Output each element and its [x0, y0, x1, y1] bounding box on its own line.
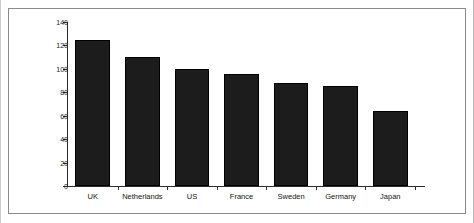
x-tick-mark — [415, 186, 416, 190]
bar — [125, 57, 160, 186]
y-tick-label: 0 — [42, 183, 68, 190]
bar-category-label: Japan — [358, 192, 422, 201]
y-tick-label-wrap: 140 — [28, 19, 68, 26]
bar — [274, 83, 309, 186]
x-tick-mark — [167, 186, 168, 190]
x-tick-mark — [316, 186, 317, 190]
y-tick-label-wrap: 120 — [28, 42, 68, 49]
y-tick-label: 60 — [42, 113, 68, 120]
bar — [224, 74, 259, 186]
bar — [175, 69, 210, 186]
y-tick-label-wrap: 20 — [28, 160, 68, 167]
bar — [323, 86, 358, 186]
x-tick-mark — [266, 186, 267, 190]
y-tick-label-wrap: 80 — [28, 89, 68, 96]
bar — [373, 111, 408, 186]
x-tick-mark — [118, 186, 119, 190]
y-tick-label-wrap: 0 — [28, 183, 68, 190]
bar-chart-figure: 020406080100120140 UKNetherlandsUSFrance… — [0, 0, 474, 223]
x-axis-line — [67, 186, 425, 187]
y-tick-label: 120 — [42, 42, 68, 49]
y-tick-label: 20 — [42, 160, 68, 167]
x-tick-mark — [217, 186, 218, 190]
bar — [75, 40, 110, 186]
y-tick-label-wrap: 60 — [28, 113, 68, 120]
y-tick-label: 80 — [42, 89, 68, 96]
y-tick-label-wrap: 40 — [28, 136, 68, 143]
y-tick-label-wrap: 100 — [28, 66, 68, 73]
y-tick-label: 140 — [42, 19, 68, 26]
y-tick-label: 40 — [42, 136, 68, 143]
plot-area: 020406080100120140 UKNetherlandsUSFrance… — [0, 0, 474, 223]
x-tick-mark — [365, 186, 366, 190]
y-tick-label: 100 — [42, 66, 68, 73]
